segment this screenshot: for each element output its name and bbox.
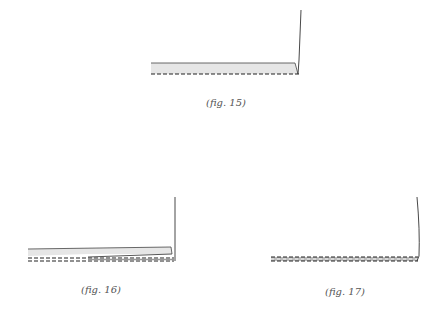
fig16-panel-lift-line — [88, 254, 172, 257]
figure-16 — [28, 197, 175, 261]
fig15-panel — [151, 63, 298, 74]
fig17-vertical-line — [417, 197, 419, 261]
fig16-caption: (fig. 16) — [81, 284, 121, 295]
figure-15 — [151, 10, 301, 74]
diagram-canvas — [0, 0, 446, 314]
figure-17 — [271, 197, 419, 261]
fig17-caption: (fig. 17) — [325, 286, 365, 297]
fig15-vertical-line — [298, 10, 301, 74]
fig15-caption: (fig. 15) — [206, 97, 246, 108]
